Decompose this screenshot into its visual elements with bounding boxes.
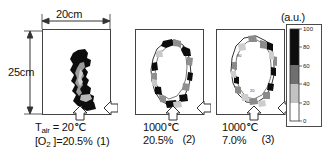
colorbar-tick-60: 60 <box>303 63 310 69</box>
panel-1-caption: Tair = 20℃ [O2 ]=20.5% (1) <box>35 121 109 149</box>
panel-3-index: (3) <box>261 133 274 147</box>
panel-1-index: (1) <box>97 135 110 149</box>
panel-1-oxygen-value: ]=20.5% <box>50 135 92 147</box>
panel-1-temperature: Tair = 20℃ <box>35 121 93 135</box>
figure-root: 20cm 25cm <box>0 0 325 160</box>
panel-3-temperature: 1000℃ <box>222 121 257 134</box>
panel-1-temperature-subscript: air <box>42 126 50 135</box>
colorbar-tick-100: 100 <box>303 26 314 32</box>
panel-1-oxygen-subscript: 2 <box>46 140 50 149</box>
colorbar-tick-80: 80 <box>303 44 310 50</box>
panel-2-map <box>135 29 211 121</box>
colorbar-container: 100 80 60 40 20 0 <box>286 24 322 127</box>
panel-2-oxygen: 20.5% <box>143 134 178 147</box>
panel-2-temperature: 1000℃ <box>143 121 178 134</box>
colorbar-tick-20: 20 <box>303 100 310 106</box>
colorbar-bands <box>290 29 299 121</box>
colorbar-graphic: 100 80 60 40 20 0 <box>287 25 321 126</box>
colorbar-title: (a.u.) <box>281 11 305 23</box>
panel-1-oxygen: [O2 ]=20.5% <box>35 135 93 149</box>
width-dimension-label: 20cm <box>56 8 82 20</box>
panel-2-caption: 1000℃ 20.5% (2) <box>143 121 195 147</box>
panel-1-map <box>42 29 118 121</box>
panel-3-caption: 1000℃ 7.0% (3) <box>222 121 274 147</box>
panel-3-oxygen: 7.0% <box>222 134 257 147</box>
panel-3-map: 80 20 <box>216 29 292 121</box>
colorbar-tick-0: 0 <box>303 118 307 124</box>
colorbar-ticks <box>299 29 302 121</box>
panel-3-inline-annotation: 80 <box>237 53 242 58</box>
panel-1-temperature-value: = 20℃ <box>50 121 86 133</box>
colorbar-tick-40: 40 <box>303 81 310 87</box>
panel-3-inline-annotation-2: 20 <box>250 88 255 93</box>
panel-2-index: (2) <box>182 133 195 147</box>
height-dimension-label: 25cm <box>8 66 34 78</box>
colorbar-tick-labels: 100 80 60 40 20 0 <box>303 26 314 124</box>
